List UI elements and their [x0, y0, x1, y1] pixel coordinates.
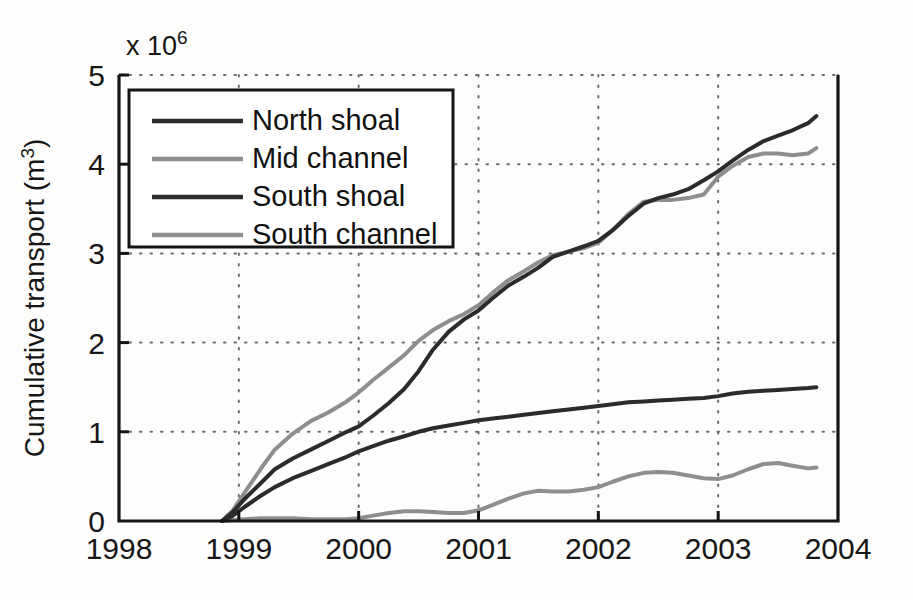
cumulative-transport-chart: 012345 1998199920002001200220032004 Cumu…: [0, 0, 913, 600]
legend-label-north-shoal[interactable]: North shoal: [252, 104, 400, 136]
svg-text:Cumulative transport (m3): Cumulative transport (m3): [17, 139, 50, 458]
series-line-south-shoal: [222, 387, 816, 521]
x-tick-label: 2002: [565, 532, 632, 565]
y-tick-label: 5: [88, 59, 105, 92]
y-axis-title-close: ): [19, 139, 50, 148]
legend-label-south-shoal[interactable]: South shoal: [252, 180, 405, 212]
y-tick-label: 1: [88, 416, 105, 449]
y-axis-exponent: x 106: [126, 27, 188, 61]
y-axis-title-text: Cumulative transport (m: [19, 159, 50, 458]
x-tick-label: 1999: [205, 532, 272, 565]
legend[interactable]: North shoalMid channelSouth shoalSouth c…: [129, 90, 453, 250]
figure-container: 012345 1998199920002001200220032004 Cumu…: [0, 0, 913, 600]
y-tick-label: 3: [88, 237, 105, 270]
y-tick-label: 2: [88, 327, 105, 360]
x-tick-labels: 1998199920002001200220032004: [86, 532, 872, 565]
legend-label-mid-channel[interactable]: Mid channel: [252, 142, 408, 174]
exponent-value: 6: [177, 27, 188, 48]
y-tick-label: 4: [88, 148, 105, 181]
y-axis-title: Cumulative transport (m3): [17, 139, 50, 458]
y-tick-labels: 012345: [88, 59, 105, 538]
x-tick-label: 2003: [685, 532, 752, 565]
svg-text:x 106: x 106: [126, 27, 188, 61]
x-tick-label: 1998: [86, 532, 153, 565]
x-tick-label: 2001: [445, 532, 512, 565]
x-tick-label: 2000: [325, 532, 392, 565]
x-tick-label: 2004: [805, 532, 872, 565]
y-axis-title-superscript: 3: [17, 148, 38, 159]
legend-label-south-channel[interactable]: South channel: [252, 218, 437, 250]
exponent-prefix: x 10: [126, 31, 177, 61]
